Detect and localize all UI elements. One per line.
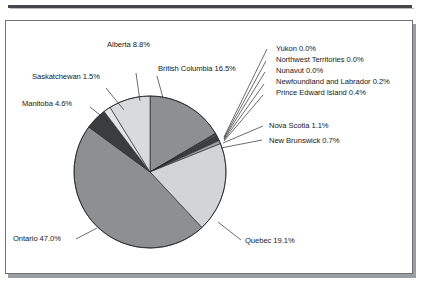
pie-label-manitoba: Manitoba 4.6% (22, 99, 72, 108)
leader-line-quebec (218, 222, 241, 240)
pie-label-british-columbia: British Columbia 16.5% (158, 64, 236, 73)
pie-label-new-brunswick: New Brunswick 0.7% (269, 136, 339, 145)
pie-label-nova-scotia: Nova Scotia 1.1% (269, 121, 329, 130)
pie-label-alberta: Alberta 8.8% (107, 40, 150, 49)
leader-line-nunavut (224, 72, 265, 139)
leader-line-newfoundland-and-labrador (224, 84, 264, 140)
pie-label-saskatchewan: Saskatchewan 1.5% (32, 72, 100, 81)
leader-line-ontario (76, 228, 97, 239)
pie-label-yukon: Yukon 0.0% (276, 44, 316, 53)
pie-chart-svg (0, 0, 422, 285)
pie-label-northwest-territories: Northwest Territories 0.0% (276, 55, 364, 64)
pie-slice-group (74, 96, 226, 248)
pie-label-nunavut: Nunavut 0.0% (276, 66, 323, 75)
leader-line-yukon (224, 49, 267, 137)
figure-container: Alberta 8.8% British Columbia 16.5% Sask… (0, 0, 422, 285)
pie-label-prince-edward-island: Prince Edward Island 0.4% (276, 88, 366, 97)
pie-label-quebec: Quebec 19.1% (245, 236, 295, 245)
pie-label-newfoundland-and-labrador: Newfoundland and Labrador 0.2% (276, 77, 390, 86)
pie-chart-plot (0, 0, 422, 285)
leader-line-british-columbia (157, 76, 163, 98)
pie-label-ontario: Ontario 47.0% (13, 234, 61, 243)
